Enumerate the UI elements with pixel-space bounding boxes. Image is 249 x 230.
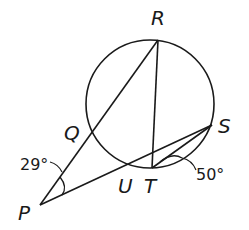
point-label-T: T (144, 174, 158, 198)
angle-P-arc (60, 177, 65, 195)
angle-label-P: 29° (20, 155, 48, 174)
point-label-P: P (18, 201, 31, 225)
point-label-U: U (118, 174, 133, 198)
circle (86, 40, 214, 168)
point-label-S: S (218, 114, 231, 138)
diagram-svg: R S T U Q P 29° 50° (0, 0, 249, 230)
angle-T-leader (182, 158, 196, 170)
point-label-R: R (151, 6, 165, 30)
chord-RT (152, 40, 158, 168)
angle-label-T: 50° (196, 165, 224, 184)
geometry-diagram: R S T U Q P 29° 50° (0, 0, 249, 230)
angle-P-leader (50, 162, 62, 172)
point-label-Q: Q (64, 121, 80, 145)
